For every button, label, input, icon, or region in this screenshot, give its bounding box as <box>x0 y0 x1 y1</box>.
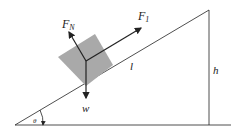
angle-arc <box>40 110 43 125</box>
incline-diagram: FN F1 w l h θ <box>0 0 233 130</box>
weight-label: w <box>82 102 90 114</box>
normal-force-label: FN <box>61 17 75 32</box>
applied-force-label: F1 <box>137 9 149 24</box>
incline-line <box>15 10 209 125</box>
angle-label: θ <box>33 117 37 125</box>
height-label: h <box>213 64 219 76</box>
length-label: l <box>130 60 133 72</box>
